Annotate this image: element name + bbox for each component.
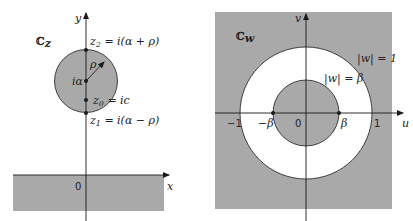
inner-circle-label: |w| = β — [324, 72, 363, 86]
origin-label: 0 — [75, 181, 81, 192]
x-axis-label: x — [167, 180, 174, 193]
tick-pos-beta: β — [340, 117, 347, 130]
point-z0 — [84, 98, 88, 102]
u-axis-label: u — [402, 117, 409, 130]
point-neg-beta — [271, 111, 275, 115]
point-center — [84, 79, 88, 83]
z2-label: z2 = i(α + ρ) — [89, 35, 159, 49]
plane-label-cw: ℂw — [236, 30, 255, 45]
tick-pos-1: 1 — [374, 118, 380, 129]
tick-neg-beta: −β — [258, 117, 274, 130]
point-pos-beta — [337, 111, 341, 115]
z-plane-panel: ℂz y x 0 z2 = i(α + ρ) ρ iα z0 = ic z1 =… — [13, 12, 174, 221]
plane-label-cz: ℂz — [36, 35, 52, 50]
point-z2 — [84, 48, 88, 52]
z1-label: z1 = i(α − ρ) — [89, 114, 159, 128]
v-axis-label: v — [295, 12, 302, 25]
radius-label: ρ — [89, 58, 97, 71]
lower-half-plane-region — [13, 175, 164, 211]
tick-neg-1: −1 — [227, 118, 242, 129]
center-label: iα — [72, 75, 84, 88]
z0-label: z0 = ic — [92, 94, 130, 108]
origin-label-w: 0 — [295, 118, 301, 129]
y-axis-label: y — [74, 12, 82, 25]
w-plane-panel: ℂw v u 0 −1 1 −β β |w| = 1 |w| = β — [215, 12, 409, 221]
point-z1 — [84, 111, 88, 115]
conformal-map-diagram: ℂz y x 0 z2 = i(α + ρ) ρ iα z0 = ic z1 =… — [0, 0, 413, 221]
outer-circle-label: |w| = 1 — [357, 52, 397, 66]
